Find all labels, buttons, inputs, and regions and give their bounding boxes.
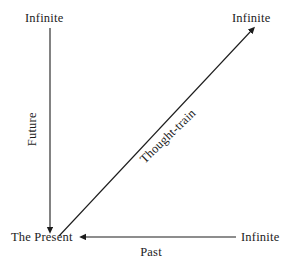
label-past-axis: Past [126, 246, 176, 259]
label-future-axis: Future [26, 94, 39, 164]
label-infinite-future-end: Infinite [25, 12, 63, 25]
label-the-present-origin: The Present [11, 231, 73, 244]
thought-train-axis-arrow [59, 31, 251, 236]
diagram-canvas: Infinite Infinite The Present Infinite F… [0, 0, 297, 273]
label-infinite-past-end: Infinite [241, 231, 279, 244]
label-infinite-thought-train-end: Infinite [232, 12, 270, 25]
